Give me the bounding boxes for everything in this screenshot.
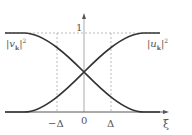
x-tick-zero: 0	[81, 116, 87, 126]
diagram-canvas	[0, 0, 192, 135]
y-axis-arrow-icon	[82, 13, 86, 19]
vk-squared-label: |vk|2	[6, 38, 26, 51]
uk-base: |u	[147, 38, 157, 49]
uk-squared-label: |uk|2	[147, 38, 168, 51]
uk-squared-curve	[5, 33, 160, 112]
coherence-factors-diagram: 1 |vk|2 |uk|2 −Δ 0 Δ ξ	[0, 0, 192, 135]
y-tick-one: 1	[76, 23, 82, 33]
x-tick-minus-delta: −Δ	[48, 119, 64, 129]
vk-base: |v	[6, 38, 15, 49]
uk-sup: 2	[164, 37, 168, 44]
x-axis-label: ξ	[163, 119, 169, 130]
x-axis-arrow-icon	[163, 110, 169, 114]
x-tick-delta: Δ	[107, 119, 114, 129]
vk-sup: 2	[23, 37, 27, 44]
